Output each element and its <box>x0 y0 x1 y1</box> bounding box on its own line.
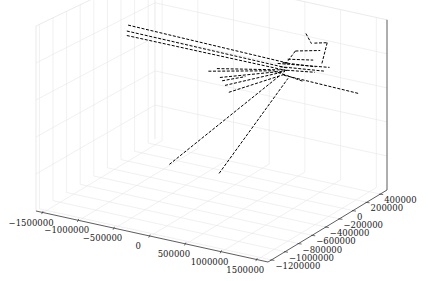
grid-line-x-floor <box>79 148 198 220</box>
x-axis-line <box>36 211 268 262</box>
grid-line-y-floor <box>107 168 339 219</box>
grid-line-x-floor <box>43 141 162 213</box>
x-tick-label: 1500000 <box>226 265 264 275</box>
x-tick-label: −500000 <box>83 233 123 243</box>
y-tick-label: 400000 <box>384 195 416 205</box>
x-axis-ticks: −1500000−1000000−50000005000001000000150… <box>9 211 265 275</box>
y-tick-mark <box>284 252 288 253</box>
grid-line-z-back <box>155 37 387 88</box>
grid-line-y-floor <box>135 151 367 202</box>
x-tick-label: 0 <box>135 241 140 251</box>
grid-line-y-floor <box>121 160 353 211</box>
grid-line-z-left <box>36 105 155 174</box>
grid-line-z-left <box>36 71 155 137</box>
series-line-path-2 <box>127 31 288 68</box>
series-line-path-17 <box>306 34 312 44</box>
y-tick-mark <box>325 227 329 228</box>
chart-3d-plot: −1500000−1000000−50000005000001000000150… <box>0 0 429 281</box>
y-tick-label: −200000 <box>343 220 383 230</box>
series-line-path-10 <box>284 75 360 94</box>
pane-edge <box>155 0 387 20</box>
y-tick-label: 0 <box>357 212 362 222</box>
series-line-path-4 <box>217 69 282 70</box>
y-tick-mark <box>366 202 370 203</box>
series-line-path-16 <box>322 43 328 65</box>
grid-line-x-floor <box>150 164 269 236</box>
y-tick-mark <box>270 260 274 261</box>
x-tick-label: 500000 <box>158 249 190 259</box>
series-line-path-1 <box>128 25 288 63</box>
y-tick-mark <box>379 194 383 195</box>
grid-line-y-floor <box>148 143 380 194</box>
data-series <box>127 25 360 173</box>
series-line-path-8 <box>169 76 279 165</box>
y-tick-mark <box>298 244 302 245</box>
grid-line-z-left <box>36 37 155 100</box>
series-line-path-3 <box>127 36 288 71</box>
series-line-path-7 <box>229 74 286 92</box>
y-tick-mark <box>352 211 356 212</box>
grid-line-x-floor <box>115 156 234 228</box>
grid-line-x-floor <box>186 172 305 244</box>
grid-lines <box>36 0 387 260</box>
y-tick-mark <box>311 235 315 236</box>
series-line-path-14 <box>295 51 320 52</box>
x-tick-label: 1000000 <box>191 257 229 267</box>
y-axis-ticks: −1200000−1000000−800000−600000−400000−20… <box>270 194 416 271</box>
y-tick-mark <box>338 219 342 220</box>
grid-line-y-floor <box>94 176 326 227</box>
grid-line-z-back <box>155 3 387 54</box>
pane-edge <box>36 0 155 26</box>
series-line-path-19 <box>288 59 314 60</box>
series-line-path-18 <box>285 51 296 65</box>
